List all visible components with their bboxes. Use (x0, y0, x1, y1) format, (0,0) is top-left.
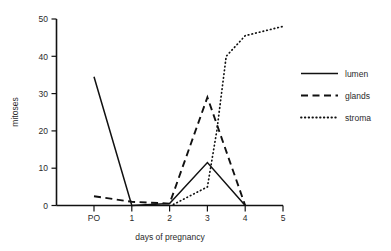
chart-figure: 50 40 30 20 10 0 PO 1 2 3 4 5 days of pr… (0, 0, 391, 251)
legend-item-glands: glands (301, 91, 370, 101)
y-tick-label: 0 (43, 201, 48, 211)
x-axis-tick-labels: PO 1 2 3 4 5 (88, 213, 286, 223)
y-tick-label: 40 (39, 52, 49, 62)
series-line-stroma (173, 26, 283, 204)
legend-label-lumen: lumen (345, 69, 368, 79)
y-axis-title: mitoses (10, 97, 20, 126)
line-chart: 50 40 30 20 10 0 PO 1 2 3 4 5 days of pr… (0, 0, 391, 251)
x-tick-label: 5 (281, 213, 286, 223)
x-tick-label: 2 (167, 213, 172, 223)
y-tick-label: 50 (39, 14, 49, 24)
x-axis-title: days of pregnancy (135, 232, 205, 242)
legend-item-lumen: lumen (301, 69, 368, 79)
legend-label-glands: glands (345, 91, 370, 101)
y-tick-label: 10 (39, 163, 49, 173)
legend-item-stroma: stroma (301, 113, 371, 123)
x-axis-ticks (94, 206, 283, 212)
x-tick-label: 4 (243, 213, 248, 223)
legend-label-stroma: stroma (345, 113, 371, 123)
y-axis-tick-labels: 50 40 30 20 10 0 (39, 14, 49, 211)
x-tick-label: PO (88, 213, 101, 223)
x-tick-label: 1 (129, 213, 134, 223)
y-tick-label: 30 (39, 89, 49, 99)
x-tick-label: 3 (205, 213, 210, 223)
chart-legend: lumen glands stroma (301, 69, 371, 123)
y-tick-label: 20 (39, 126, 49, 136)
